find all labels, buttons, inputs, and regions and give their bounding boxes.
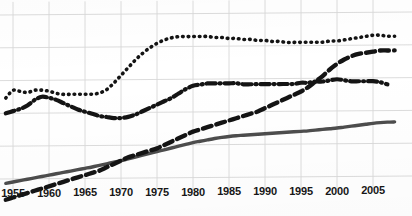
- vertical-gridlines: [13, 0, 373, 192]
- x-axis-tick-labels: 1955196019651970197519801985199019952000…: [0, 186, 412, 216]
- x-axis-label-1965: 1965: [73, 186, 97, 198]
- x-axis-label-1980: 1980: [181, 186, 205, 198]
- gridline-horizontal: [0, 176, 412, 179]
- x-axis-label-1970: 1970: [109, 186, 133, 198]
- gridline-horizontal: [0, 143, 412, 146]
- x-axis-label-1990: 1990: [253, 185, 277, 197]
- x-axis-label-1975: 1975: [145, 186, 169, 198]
- gridline-horizontal: [0, 110, 412, 113]
- gridline-horizontal: [0, 45, 412, 48]
- grid-layer: [0, 0, 412, 192]
- gridline-horizontal: [0, 12, 412, 15]
- series-solid-line: [6, 122, 395, 183]
- x-axis-label-2005: 2005: [361, 184, 385, 196]
- series-layer: [6, 35, 395, 200]
- x-axis-label-1955: 1955: [1, 187, 25, 199]
- x-axis-label-1960: 1960: [37, 187, 61, 199]
- line-chart-plot: [0, 0, 412, 216]
- x-axis-label-1995: 1995: [289, 185, 313, 197]
- chart-screenshot: 1955196019651970197519801985199019952000…: [0, 0, 412, 216]
- x-axis-label-1985: 1985: [217, 185, 241, 197]
- x-axis-label-2000: 2000: [325, 185, 349, 197]
